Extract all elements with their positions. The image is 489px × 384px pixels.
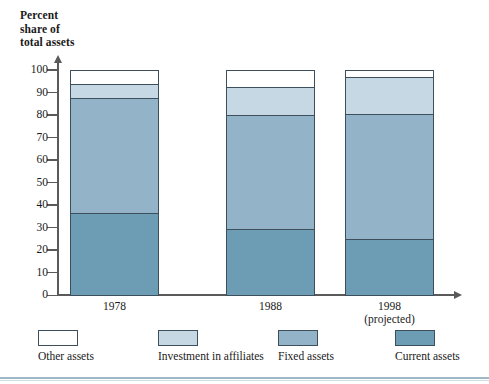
legend-item-other-assets[interactable]: Other assets bbox=[38, 330, 94, 362]
y-axis-tick-label: 50 bbox=[37, 177, 49, 189]
legend-label: Current assets bbox=[395, 350, 460, 362]
y-axis-tick-label: 70 bbox=[37, 132, 49, 144]
x-axis-arrow-icon bbox=[454, 291, 462, 299]
y-axis-tick-label: 10 bbox=[37, 267, 49, 279]
y-axis-tick-label: 80 bbox=[37, 109, 49, 121]
bar-1988[interactable] bbox=[226, 0, 315, 384]
y-axis-tick bbox=[47, 204, 57, 205]
legend-label: Fixed assets bbox=[278, 350, 334, 362]
bottom-divider bbox=[0, 377, 489, 379]
x-axis-label-year: 1988 bbox=[259, 300, 282, 312]
legend-swatch bbox=[395, 330, 435, 346]
y-axis-line bbox=[57, 62, 59, 296]
x-axis-label-year: 1978 bbox=[103, 300, 126, 312]
bar-segment-fixed-assets[interactable] bbox=[345, 114, 434, 240]
bar-segment-other-assets[interactable] bbox=[345, 70, 434, 78]
y-axis-tick bbox=[47, 159, 57, 160]
y-axis-tick-label: 30 bbox=[37, 222, 49, 234]
bar-1978[interactable] bbox=[70, 0, 159, 384]
legend-item-fixed-assets[interactable]: Fixed assets bbox=[278, 330, 334, 362]
legend-swatch bbox=[278, 330, 318, 346]
bar-segment-other-assets[interactable] bbox=[70, 70, 159, 85]
stacked-bar-chart: Percent share of total assets 1009080706… bbox=[0, 0, 489, 384]
y-axis-tick bbox=[47, 137, 57, 138]
bottom-divider-secondary bbox=[0, 380, 489, 381]
legend-label: Other assets bbox=[38, 350, 94, 362]
y-axis-tick bbox=[47, 272, 57, 273]
x-axis-label-1978: 1978 bbox=[45, 300, 185, 313]
y-axis-tick-label: 90 bbox=[37, 87, 49, 99]
legend-item-investment-in-affiliates[interactable]: Investment in affiliates bbox=[158, 330, 264, 362]
y-axis-tick-label: 20 bbox=[37, 244, 49, 256]
chart-legend: Other assetsInvestment in affiliatesFixe… bbox=[0, 330, 489, 374]
bar-segment-investment-in-affiliates[interactable] bbox=[345, 77, 434, 115]
x-axis-label-1998: 1998(projected) bbox=[320, 300, 460, 326]
y-axis-tick bbox=[47, 295, 57, 296]
bar-segment-investment-in-affiliates[interactable] bbox=[70, 84, 159, 100]
legend-swatch bbox=[158, 330, 198, 346]
bar-segment-other-assets[interactable] bbox=[226, 70, 315, 88]
y-axis-tick bbox=[47, 182, 57, 183]
y-axis-tick bbox=[47, 227, 57, 228]
y-axis-tick bbox=[47, 69, 57, 70]
x-axis-label-sublabel: (projected) bbox=[320, 313, 460, 326]
bar-segment-current-assets[interactable] bbox=[226, 229, 315, 297]
y-axis-tick-label: 100 bbox=[31, 64, 48, 76]
x-axis-label-year: 1998 bbox=[378, 300, 401, 312]
y-axis-tick-label: 60 bbox=[37, 154, 49, 166]
bar-segment-fixed-assets[interactable] bbox=[70, 98, 159, 214]
bar-segment-investment-in-affiliates[interactable] bbox=[226, 87, 315, 116]
legend-label: Investment in affiliates bbox=[158, 350, 264, 362]
y-axis-tick-label: 40 bbox=[37, 199, 49, 211]
y-axis-arrow-icon bbox=[54, 55, 62, 63]
y-axis-tick bbox=[47, 92, 57, 93]
legend-item-current-assets[interactable]: Current assets bbox=[395, 330, 460, 362]
y-axis-tick bbox=[47, 114, 57, 115]
bar-segment-fixed-assets[interactable] bbox=[226, 115, 315, 230]
y-axis-tick-label: 0 bbox=[42, 289, 48, 301]
legend-swatch bbox=[38, 330, 78, 346]
bar-segment-current-assets[interactable] bbox=[345, 239, 434, 296]
bar-1998[interactable] bbox=[345, 0, 434, 384]
bar-segment-current-assets[interactable] bbox=[70, 213, 159, 296]
y-axis-tick bbox=[47, 249, 57, 250]
plot-area: 1009080706050403020100 197819881998(proj… bbox=[0, 0, 489, 384]
